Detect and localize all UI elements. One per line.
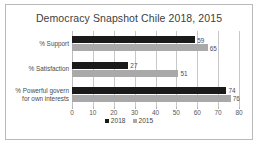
x-tick-label-50: 50	[173, 109, 180, 116]
x-tick-label-70: 70	[215, 109, 222, 116]
legend-item-2015[interactable]: 2015	[133, 117, 154, 124]
category-label: % Satisfaction	[29, 65, 70, 73]
legend-swatch-icon	[105, 119, 109, 123]
bar-2018: 59	[72, 36, 195, 43]
bar-group: % Support5965	[72, 36, 239, 51]
category-label: % Powerful governfor own interests	[15, 87, 69, 102]
x-tick-label-30: 30	[131, 109, 138, 116]
legend-label: 2018	[111, 117, 126, 124]
bar-group: % Satisfaction2751	[72, 62, 239, 77]
bar-value-label: 65	[210, 44, 217, 51]
chart-container: Democracy Snapshot Chile 2018, 2015 0102…	[5, 4, 253, 140]
x-tick-label-20: 20	[110, 109, 117, 116]
legend-label: 2015	[139, 117, 154, 124]
bar-value-label: 76	[233, 95, 240, 102]
bar-value-label: 51	[180, 70, 187, 77]
bar-value-label: 59	[197, 36, 204, 43]
bar-2018: 74	[72, 87, 226, 94]
x-tick-label-40: 40	[152, 109, 159, 116]
bar-2015: 51	[72, 70, 178, 77]
chart-legend: 20182015	[6, 117, 252, 124]
x-tick-label-80: 80	[235, 109, 242, 116]
category-label: % Support	[39, 40, 69, 48]
x-tick-label-10: 10	[89, 109, 96, 116]
bar-value-label: 74	[228, 87, 235, 94]
bar-group: % Powerful governfor own interests7476	[72, 87, 239, 102]
plot-area: 01020304050607080% Support5965% Satisfac…	[72, 31, 239, 107]
bar-2015: 65	[72, 44, 208, 51]
legend-item-2018[interactable]: 2018	[105, 117, 126, 124]
x-tick-label-0: 0	[70, 109, 74, 116]
x-tick-label-60: 60	[194, 109, 201, 116]
bar-2015: 76	[72, 95, 231, 102]
legend-swatch-icon	[133, 119, 137, 123]
chart-title: Democracy Snapshot Chile 2018, 2015	[6, 12, 252, 24]
bar-value-label: 27	[130, 62, 137, 69]
bar-2018: 27	[72, 62, 128, 69]
